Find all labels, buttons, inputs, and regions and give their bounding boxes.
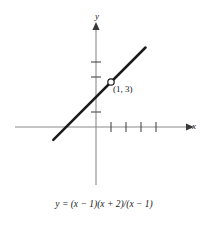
y-axis-label: y (95, 12, 99, 21)
x-axis-label: x (192, 122, 196, 131)
y-axis (92, 22, 99, 185)
coordinate-plot (0, 0, 208, 226)
x-axis (15, 123, 194, 130)
graph-figure: y x (1, 3) y = (x − 1)(x + 2)/(x − 1) (0, 0, 208, 226)
figure-caption: y = (x − 1)(x + 2)/(x − 1) (0, 199, 208, 210)
y-axis-arrowhead (92, 22, 99, 30)
point-coordinate-label: (1, 3) (113, 85, 133, 94)
